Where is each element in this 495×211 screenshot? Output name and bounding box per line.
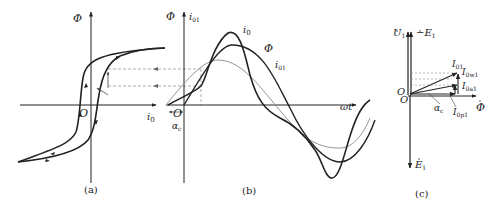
alpha-c-label: αc: [172, 121, 182, 132]
origin-label: O: [79, 107, 88, 120]
omega-t-label: ωt: [340, 101, 353, 112]
phi-axis-label: Φ: [73, 12, 82, 25]
phi-curve-label: Φ: [264, 42, 273, 55]
i0-axis-label: i0: [147, 111, 155, 124]
phi-axis-label: Φ: [166, 10, 175, 23]
figure-canvas: Φ O i0 (a) Φ i01 O αc i0 Φ i01 ωt (b): [0, 0, 495, 211]
i0w1-label: I0w1: [461, 67, 478, 78]
u1-label: U1: [393, 27, 405, 39]
projection-arrow: [153, 67, 158, 71]
phasor-dot: [479, 100, 480, 101]
origin-label: O: [173, 107, 182, 120]
panel-c-phasor: U1 −E1 E1 O O I01 I0w1 I0a1 I0p1 αc Φ (c…: [393, 27, 485, 199]
caption-b: (b): [242, 185, 256, 196]
caption-c: (c): [415, 188, 429, 199]
panel-a-hysteresis: Φ O i0 (a): [18, 12, 165, 195]
i0p1-label: I0p1: [452, 107, 468, 119]
panel-b-waveforms: Φ i01 O αc i0 Φ i01 ωt (b): [166, 10, 375, 196]
phasor-dot: [419, 30, 420, 31]
neg-e1-label: −E1: [416, 27, 436, 39]
e1-label: E1: [414, 159, 426, 171]
phasor-dot: [418, 158, 419, 159]
arrow-marker: [50, 152, 55, 155]
arrow-marker: [45, 159, 50, 162]
phi-label: Φ: [476, 101, 485, 114]
i0-curve-label: i0: [243, 24, 251, 37]
i01-phasor: [410, 73, 457, 94]
i01-axis-label: i01: [189, 11, 200, 23]
phasor-dot: [396, 30, 397, 31]
resultant-phasor: [410, 85, 457, 94]
origin-label-lower: O: [400, 94, 408, 105]
arrow-marker: [84, 83, 88, 88]
i0p1-leader: [450, 96, 456, 107]
projection-arrow: [153, 84, 158, 88]
i0a1-label: I0a1: [461, 81, 477, 92]
alpha-c-label: αc: [434, 103, 444, 114]
i01-curve-label: i01: [275, 59, 286, 71]
caption-a: (a): [84, 184, 98, 195]
